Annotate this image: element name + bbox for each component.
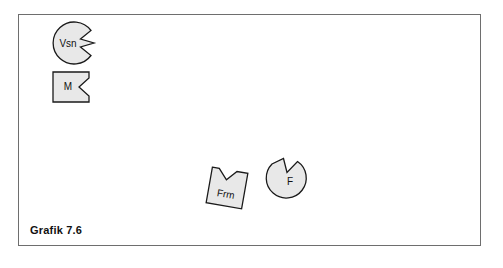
figure-page: Vsn M Frm F Grafik 7.6 [0, 0, 503, 268]
figure-frame [18, 14, 481, 246]
figure-caption: Grafik 7.6 [30, 224, 82, 236]
